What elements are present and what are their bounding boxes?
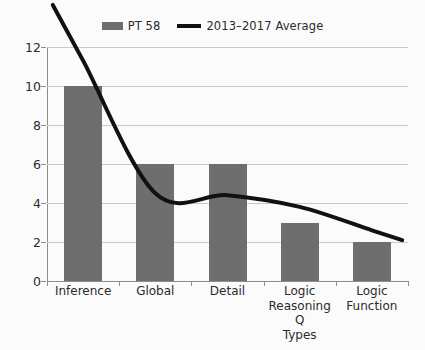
legend-entry-pt-58: PT 58 — [102, 19, 161, 33]
x-axis-labels: InferenceGlobalDetailLogicReasoning QTyp… — [47, 284, 408, 346]
legend-label-average: 2013–2017 Average — [206, 19, 323, 33]
y-tick-mark — [41, 203, 46, 204]
y-tick-label: 4 — [5, 196, 41, 211]
x-tick-mark — [408, 281, 409, 286]
x-tick-mark — [336, 281, 337, 286]
y-tick-label: 6 — [5, 157, 41, 172]
x-tick-mark — [191, 281, 192, 286]
y-tick-label: 0 — [5, 274, 41, 289]
y-tick-label: 8 — [5, 118, 41, 133]
legend-line-swatch-icon — [177, 24, 201, 28]
x-tick-label-line: Function — [336, 299, 408, 314]
x-tick-label: Detail — [191, 284, 263, 299]
x-tick-label-line: Logic — [336, 284, 408, 299]
y-tick-label: 2 — [5, 235, 41, 250]
x-tick-label-line: Global — [119, 284, 191, 299]
y-tick-label: 12 — [5, 40, 41, 55]
x-tick-label: LogicFunction — [336, 284, 408, 313]
x-axis-line — [47, 281, 408, 282]
x-tick-mark — [119, 281, 120, 286]
legend-bar-swatch-icon — [102, 22, 123, 30]
y-tick-label: 10 — [5, 79, 41, 94]
y-tick-mark — [41, 125, 46, 126]
y-axis: 121086420 — [0, 47, 41, 281]
x-tick-mark — [47, 281, 48, 286]
y-tick-mark — [41, 164, 46, 165]
y-tick-mark — [41, 281, 46, 282]
x-tick-label-line: Inference — [47, 284, 119, 299]
x-tick-label-line: Types — [264, 328, 336, 343]
legend-label-pt-58: PT 58 — [128, 19, 161, 33]
bar-line-combo-chart: PT 58 2013–2017 Average 121086420 Infere… — [0, 0, 425, 350]
x-tick-label-line: Detail — [191, 284, 263, 299]
x-tick-label-line: Logic — [264, 284, 336, 299]
x-axis-line-wrap — [47, 281, 408, 282]
legend-entry-average: 2013–2017 Average — [177, 19, 323, 33]
x-tick-mark — [264, 281, 265, 286]
y-tick-mark — [41, 47, 46, 48]
y-tick-mark — [41, 242, 46, 243]
x-tick-label: Inference — [47, 284, 119, 299]
average-line-path — [53, 5, 402, 240]
y-tick-mark — [41, 86, 46, 87]
x-tick-label-line: Reasoning Q — [264, 299, 336, 328]
x-tick-label: Global — [119, 284, 191, 299]
line-series-average — [47, 47, 408, 281]
x-tick-label: LogicReasoning QTypes — [264, 284, 336, 342]
